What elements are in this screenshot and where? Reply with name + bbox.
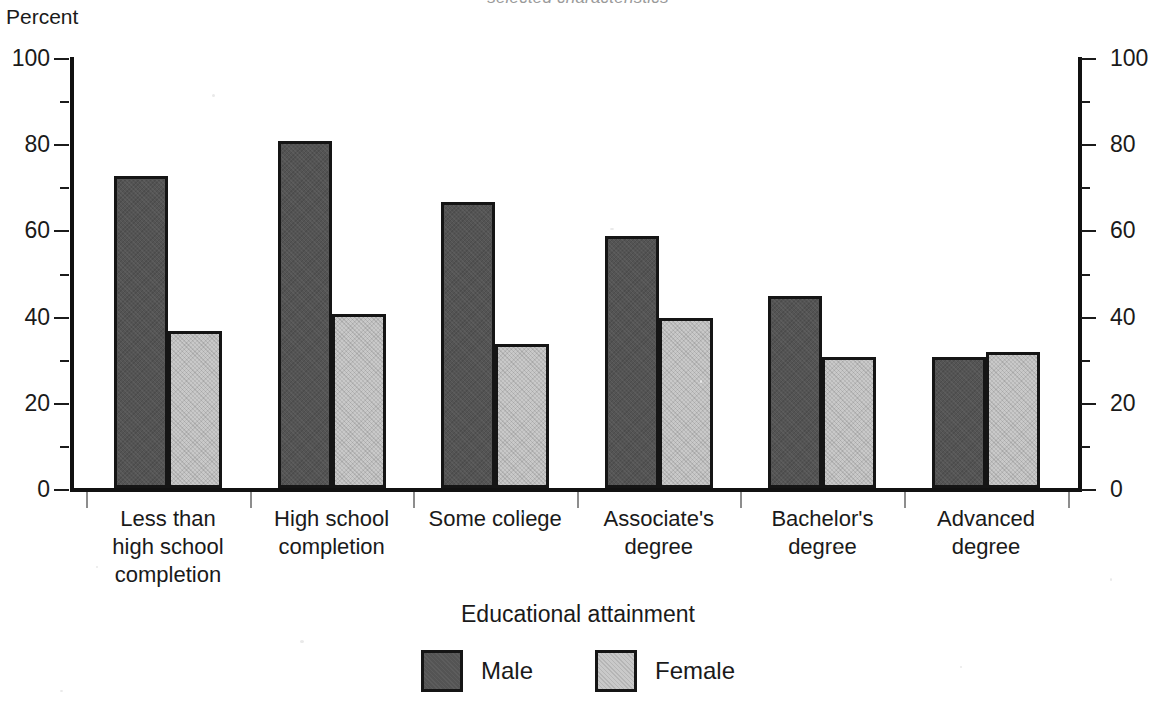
y-tick-label-left-80: 80 xyxy=(24,133,50,156)
y-tick-left-100 xyxy=(54,58,69,60)
y-axis-caption: Percent xyxy=(6,6,78,27)
bar-male-4 xyxy=(768,296,822,488)
y-tick-minor-left-70 xyxy=(60,187,69,189)
y-tick-minor-right-50 xyxy=(1081,274,1090,276)
bar-female-4 xyxy=(822,357,876,488)
clipped-figure-title-text: selected characteristics xyxy=(487,0,668,6)
legend-item-female: Female xyxy=(595,650,735,692)
plot-area: 002020404060608080100100 xyxy=(72,59,1080,490)
x-axis-title: Educational attainment xyxy=(0,603,1156,626)
legend-swatch-female-icon xyxy=(595,650,637,692)
bar-male-5 xyxy=(932,357,986,488)
y-tick-right-100 xyxy=(1081,58,1096,60)
y-tick-minor-right-10 xyxy=(1081,446,1090,448)
x-category-label-1-line-1: completion xyxy=(232,533,432,561)
legend: Male Female xyxy=(0,650,1156,692)
bar-female-5 xyxy=(986,352,1040,488)
y-tick-label-left-100: 100 xyxy=(12,47,50,70)
y-tick-label-right-100: 100 xyxy=(1110,47,1148,70)
x-category-label-0-line-2: completion xyxy=(68,561,268,589)
y-tick-label-right-20: 20 xyxy=(1110,392,1136,415)
y-axis-left-line xyxy=(70,57,74,492)
y-tick-minor-right-90 xyxy=(1081,101,1090,103)
bar-male-1 xyxy=(278,141,332,488)
legend-label-male: Male xyxy=(481,659,533,683)
y-tick-minor-left-30 xyxy=(60,360,69,362)
bar-male-0 xyxy=(114,176,168,488)
y-tick-minor-right-70 xyxy=(1081,187,1090,189)
y-tick-left-0 xyxy=(54,489,69,491)
clipped-figure-title: selected characteristics xyxy=(0,0,1156,7)
y-tick-minor-left-90 xyxy=(60,101,69,103)
y-tick-left-60 xyxy=(54,230,69,232)
y-tick-label-left-40: 40 xyxy=(24,306,50,329)
y-tick-right-80 xyxy=(1081,144,1096,146)
y-tick-label-right-40: 40 xyxy=(1110,306,1136,329)
y-tick-right-40 xyxy=(1081,317,1096,319)
legend-label-female: Female xyxy=(655,659,735,683)
bar-chart-figure: selected characteristics Percent 0020204… xyxy=(0,0,1156,710)
scan-speckle xyxy=(1110,578,1112,581)
y-tick-right-20 xyxy=(1081,403,1096,405)
y-tick-label-left-20: 20 xyxy=(24,392,50,415)
y-tick-minor-left-50 xyxy=(60,274,69,276)
y-tick-label-right-0: 0 xyxy=(1110,478,1123,501)
y-tick-left-20 xyxy=(54,403,69,405)
bar-female-2 xyxy=(495,344,549,488)
y-tick-minor-left-10 xyxy=(60,446,69,448)
y-tick-right-60 xyxy=(1081,230,1096,232)
bar-female-1 xyxy=(332,314,386,488)
legend-item-male: Male xyxy=(421,650,533,692)
legend-swatch-male-icon xyxy=(421,650,463,692)
y-tick-right-0 xyxy=(1081,489,1096,491)
y-tick-label-left-0: 0 xyxy=(37,478,50,501)
y-tick-label-left-60: 60 xyxy=(24,219,50,242)
y-tick-label-right-80: 80 xyxy=(1110,133,1136,156)
y-tick-label-right-60: 60 xyxy=(1110,219,1136,242)
bar-female-3 xyxy=(659,318,713,488)
bar-female-0 xyxy=(168,331,222,488)
x-category-label-5-line-0: Advanced xyxy=(886,505,1086,533)
bar-male-2 xyxy=(441,202,495,488)
y-tick-left-40 xyxy=(54,317,69,319)
x-category-label-5: Advanceddegree xyxy=(886,505,1086,561)
y-tick-minor-right-30 xyxy=(1081,360,1090,362)
bar-male-3 xyxy=(605,236,659,488)
scan-speckle xyxy=(300,640,304,643)
x-category-label-5-line-1: degree xyxy=(886,533,1086,561)
y-tick-left-80 xyxy=(54,144,69,146)
